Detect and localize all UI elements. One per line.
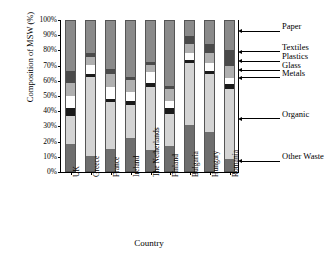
segment-glass <box>146 72 155 83</box>
x-tick-label-bulgaria: Bulgaria <box>192 151 200 177</box>
segment-textiles <box>66 71 75 83</box>
bar-bulgaria[interactable] <box>184 20 195 172</box>
legend-leader-line <box>242 31 280 32</box>
y-tick-mark <box>58 142 61 143</box>
segment-plastics <box>225 66 234 78</box>
arrow-left-icon <box>238 76 242 80</box>
legend-label: Organic <box>282 109 309 119</box>
arrow-left-icon <box>238 29 242 33</box>
segment-paper <box>126 21 135 77</box>
segment-glass <box>165 101 174 109</box>
x-tick-label-romania: Romania <box>232 150 240 177</box>
segment-metals <box>66 108 75 116</box>
segment-paper <box>185 21 194 36</box>
arrow-left-icon <box>238 59 242 63</box>
arrow-left-icon <box>238 159 242 163</box>
segment-glass <box>205 63 214 71</box>
segment-textiles <box>225 50 234 67</box>
segment-plastics <box>165 89 174 101</box>
y-tick-mark <box>58 20 61 21</box>
segment-plastics <box>185 44 194 53</box>
x-tick-label-greece: Greece <box>93 156 101 177</box>
segment-organic <box>205 74 214 133</box>
segment-paper <box>86 21 95 53</box>
segment-organic <box>106 102 115 149</box>
segment-glass <box>185 53 194 61</box>
arrow-left-icon <box>238 68 242 72</box>
segment-textiles <box>185 36 194 44</box>
x-axis-title: Country <box>60 238 238 248</box>
y-tick-mark <box>58 96 61 97</box>
y-tick-mark <box>58 66 61 67</box>
y-tick-mark <box>58 126 61 127</box>
segment-plastics <box>126 80 135 92</box>
y-tick-mark <box>58 111 61 112</box>
segment-plastics <box>106 74 115 88</box>
legend-leader-line <box>242 161 280 162</box>
arrow-left-icon <box>238 50 242 54</box>
bar-hungary[interactable] <box>204 20 215 172</box>
legend-leader-line <box>242 77 280 78</box>
x-tick-label-ireland: Ireland <box>133 156 141 177</box>
segment-organic <box>126 105 135 138</box>
segment-organic <box>185 63 194 125</box>
x-tick-label-hungary: Hungary <box>212 151 220 177</box>
segment-paper <box>146 21 155 62</box>
segment-paper <box>165 21 174 86</box>
segment-paper <box>225 21 234 50</box>
arrow-left-icon <box>238 117 242 121</box>
segment-organic <box>86 77 95 157</box>
x-tick-label-france: France <box>113 157 121 177</box>
segment-glass <box>66 96 75 108</box>
segment-paper <box>106 21 115 69</box>
y-tick-mark <box>58 81 61 82</box>
segment-plastics <box>86 57 95 65</box>
x-tick-label-finland: Finland <box>172 154 180 177</box>
chart-figure: Composition of MSW (%) 0%10%20%30%40%50%… <box>0 0 329 264</box>
segment-paper <box>66 21 75 71</box>
legend-label: Paper <box>282 21 301 31</box>
legend-label: Other Waste <box>282 151 324 161</box>
legend-leader-line <box>242 51 280 52</box>
segment-glass <box>126 92 135 101</box>
segment-textiles <box>205 44 214 53</box>
segment-organic <box>225 89 234 160</box>
segment-paper <box>205 21 214 44</box>
bar-greece[interactable] <box>85 20 96 172</box>
segment-organic <box>165 114 174 146</box>
y-tick-mark <box>58 50 61 51</box>
y-tick-mark <box>58 172 61 173</box>
segment-organic <box>66 116 75 145</box>
segment-glass <box>86 65 95 74</box>
y-axis-title: Composition of MSW (%) <box>25 0 35 132</box>
y-tick-mark <box>58 35 61 36</box>
x-tick-label-uk: UK <box>73 166 81 177</box>
segment-glass <box>106 87 115 99</box>
segment-plastics <box>66 83 75 97</box>
bar-ireland[interactable] <box>125 20 136 172</box>
x-tick-label-the-netherlands: The Netherlands <box>153 127 161 177</box>
bar-france[interactable] <box>105 20 116 172</box>
legend-label: Metals <box>282 68 305 78</box>
legend-leader-line <box>242 61 280 62</box>
legend-leader-line <box>242 70 280 71</box>
bar-finland[interactable] <box>164 20 175 172</box>
segment-plastics <box>205 53 214 64</box>
bar-uk[interactable] <box>65 20 76 172</box>
segment-plastics <box>146 65 155 73</box>
y-tick-mark <box>58 157 61 158</box>
legend-leader-line <box>242 118 280 119</box>
